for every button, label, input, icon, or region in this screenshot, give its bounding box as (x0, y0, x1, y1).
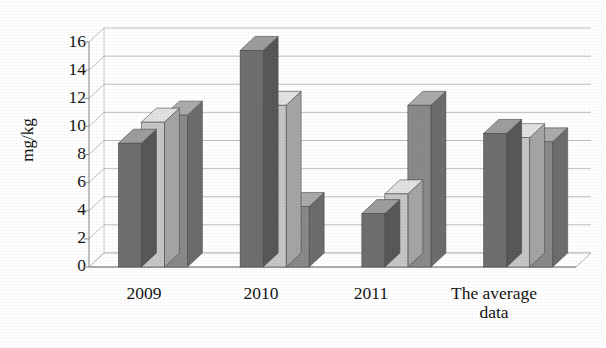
x-label-line: data (479, 302, 508, 322)
x-label-line: 2010 (244, 283, 279, 303)
x-label-group-3: The average data (432, 284, 556, 322)
x-label-group-2: 2011 (323, 284, 419, 303)
x-label-line: 2009 (127, 283, 162, 303)
x-label-line: 2011 (354, 283, 388, 303)
bar-chart: mg/kg 16 14 12 10 8 6 4 2 0 2009 2010 20… (0, 0, 606, 348)
x-label-line: The average (451, 283, 537, 303)
x-label-group-0: 2009 (96, 284, 192, 303)
x-label-group-1: 2010 (213, 284, 309, 303)
